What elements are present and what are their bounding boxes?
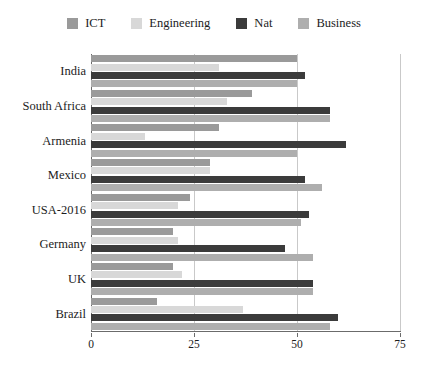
bar-group	[91, 158, 400, 193]
x-axis-label: 75	[394, 339, 406, 351]
bar[interactable]	[91, 124, 219, 131]
bar[interactable]	[91, 228, 173, 235]
y-axis-labels: IndiaSouth AfricaArmeniaMexicoUSA-2016Ge…	[0, 54, 86, 331]
bar[interactable]	[91, 176, 305, 183]
y-axis-label: UK	[1, 273, 86, 286]
chart-legend: ICTEngineeringNatBusiness	[0, 12, 428, 34]
bar[interactable]	[91, 167, 210, 174]
bar[interactable]	[91, 184, 322, 191]
bar-group	[91, 123, 400, 158]
bar[interactable]	[91, 280, 313, 287]
y-axis-label: Brazil	[1, 308, 86, 321]
x-tick-mark	[194, 333, 195, 337]
y-axis-label: USA-2016	[1, 204, 86, 217]
y-axis-label: India	[1, 65, 86, 78]
legend-label: Nat	[254, 17, 272, 30]
y-axis-label: South Africa	[1, 100, 86, 113]
bar[interactable]	[91, 80, 297, 87]
x-axis-label: 25	[188, 339, 200, 351]
y-axis-label: Mexico	[1, 169, 86, 182]
bar[interactable]	[91, 150, 297, 157]
legend-swatch-icon	[298, 18, 309, 29]
bar[interactable]	[91, 90, 252, 97]
x-axis-ticks: 0255075	[0, 333, 428, 355]
legend-label: Engineering	[149, 17, 210, 30]
x-axis-line	[91, 331, 401, 332]
bar[interactable]	[91, 288, 313, 295]
bar[interactable]	[91, 98, 227, 105]
legend-label: ICT	[85, 17, 105, 30]
bar[interactable]	[91, 64, 219, 71]
legend-entry-engineering[interactable]: Engineering	[131, 17, 210, 30]
bar[interactable]	[91, 72, 305, 79]
x-tick-mark	[91, 333, 92, 337]
bar[interactable]	[91, 211, 309, 218]
bar[interactable]	[91, 298, 157, 305]
bar[interactable]	[91, 314, 338, 321]
legend-swatch-icon	[67, 18, 78, 29]
bar[interactable]	[91, 107, 330, 114]
x-tick-mark	[400, 333, 401, 337]
legend-entry-nat[interactable]: Nat	[236, 17, 272, 30]
bar[interactable]	[91, 133, 145, 140]
bar[interactable]	[91, 237, 178, 244]
legend-entry-ict[interactable]: ICT	[67, 17, 105, 30]
bar-group	[91, 89, 400, 124]
gridline	[400, 54, 401, 331]
bar-group	[91, 54, 400, 89]
bar[interactable]	[91, 141, 346, 148]
bar-group	[91, 262, 400, 297]
bar-group	[91, 296, 400, 331]
bar[interactable]	[91, 245, 285, 252]
bar[interactable]	[91, 194, 190, 201]
x-tick-mark	[297, 333, 298, 337]
bar[interactable]	[91, 323, 330, 330]
x-axis-label: 0	[88, 339, 94, 351]
y-axis-label: Germany	[1, 238, 86, 251]
bar-chart: ICTEngineeringNatBusiness IndiaSouth Afr…	[0, 0, 428, 366]
x-axis-label: 50	[291, 339, 303, 351]
bar[interactable]	[91, 55, 297, 62]
legend-label: Business	[316, 17, 360, 30]
bar-group	[91, 193, 400, 228]
legend-entry-business[interactable]: Business	[298, 17, 360, 30]
bar[interactable]	[91, 263, 173, 270]
bar[interactable]	[91, 115, 330, 122]
bar[interactable]	[91, 306, 243, 313]
plot-area	[91, 54, 400, 331]
bar[interactable]	[91, 254, 313, 261]
bar[interactable]	[91, 271, 182, 278]
bar-group	[91, 227, 400, 262]
legend-swatch-icon	[131, 18, 142, 29]
y-axis-label: Armenia	[1, 135, 86, 148]
bar[interactable]	[91, 219, 301, 226]
bar[interactable]	[91, 159, 210, 166]
bar[interactable]	[91, 202, 178, 209]
legend-swatch-icon	[236, 18, 247, 29]
